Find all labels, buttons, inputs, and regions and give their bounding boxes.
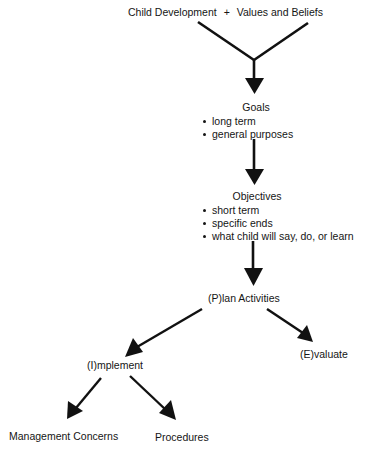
down-arrow-icon bbox=[245, 139, 264, 185]
objectives-bullet: specific ends bbox=[202, 217, 354, 230]
inputs-title: Child Development + Values and Beliefs bbox=[128, 6, 323, 19]
goals-bullet: long term bbox=[202, 115, 293, 128]
goals-heading: Goals bbox=[242, 101, 269, 114]
down-arrow-icon bbox=[244, 241, 263, 286]
diagonal-arrow-icon bbox=[125, 309, 202, 357]
goals-bullet: general purposes bbox=[202, 128, 293, 141]
diagonal-arrow-icon bbox=[67, 378, 101, 419]
goals-bullet-list: long term general purposes bbox=[202, 115, 293, 141]
procedures-node: Procedures bbox=[155, 431, 209, 444]
objectives-bullet: what child will say, do, or learn bbox=[202, 230, 354, 243]
objectives-heading: Objectives bbox=[232, 190, 281, 203]
merge-arrow-icon bbox=[198, 22, 308, 94]
objectives-bullet: short term bbox=[202, 204, 354, 217]
diagonal-arrow-icon bbox=[130, 376, 176, 420]
evaluate-node: (E)valuate bbox=[300, 348, 348, 361]
management-concerns-node: Management Concerns bbox=[9, 430, 118, 443]
objectives-bullet-list: short term specific ends what child will… bbox=[202, 204, 354, 243]
implement-node: (I)mplement bbox=[87, 359, 143, 372]
flow-diagram: Child Development + Values and Beliefs G… bbox=[0, 0, 376, 453]
values-beliefs-label: Values and Beliefs bbox=[237, 6, 323, 18]
diagonal-arrow-icon bbox=[267, 309, 313, 342]
plus-sign: + bbox=[224, 6, 230, 18]
plan-activities-node: (P)lan Activities bbox=[208, 292, 280, 305]
child-development-label: Child Development bbox=[128, 6, 217, 18]
